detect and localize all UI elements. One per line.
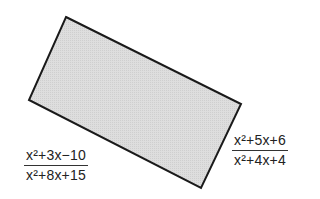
right-denominator: x²+4x+4: [232, 151, 288, 168]
left-side-fraction: x²+3x−10 x²+8x+15: [24, 148, 88, 183]
right-numerator: x²+5x+6: [232, 133, 288, 151]
right-side-fraction: x²+5x+6 x²+4x+4: [232, 133, 288, 168]
left-numerator: x²+3x−10: [24, 148, 88, 166]
left-denominator: x²+8x+15: [24, 166, 88, 183]
